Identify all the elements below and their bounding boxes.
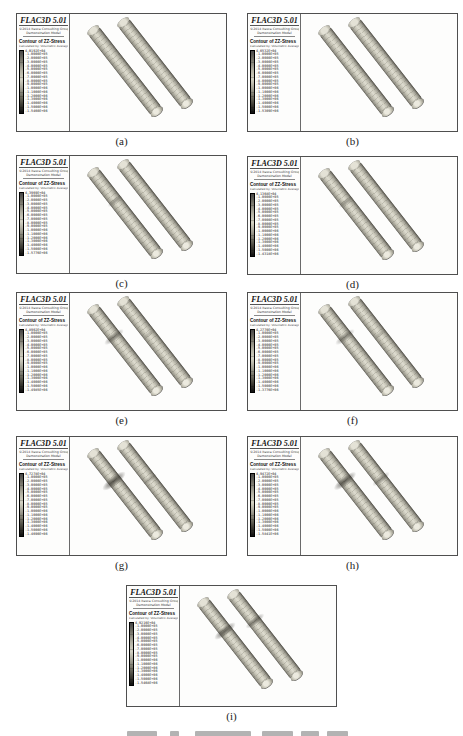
contour-scale: 4.3969E+04-1.0000E+05-2.0000E+05-3.0000E… [19,192,68,256]
subfigure-a: FLAC3D 5.01 ©2014 Itasca Consulting Grou… [16,13,227,147]
model-line: Demonstration Model [23,173,64,179]
figure-page: FLAC3D 5.01 ©2014 Itasca Consulting Grou… [0,0,463,736]
legend-panel: FLAC3D 5.01 ©2014 Itasca Consulting Grou… [17,14,70,131]
specimen-top-face [116,15,131,29]
specimen-bottom-face [149,105,164,119]
model-line: Demonstration Model [254,454,295,460]
subfigure-label: (g) [16,559,227,571]
contour-scale: 4.2770E+04-1.0000E+05-2.0000E+05-3.0000E… [250,329,299,393]
caption-word-blur [195,731,251,736]
contour-scale: 4.9216E+04-1.0000E+05-2.0000E+05-3.0000E… [129,622,178,686]
model-view [301,157,457,274]
flac3d-window: FLAC3D 5.01 ©2014 Itasca Consulting Grou… [247,156,458,275]
legend-entry: -1.5776E+06 [25,252,47,256]
specimen-right [117,18,192,109]
specimen-left [87,168,162,259]
flac3d-logo-text: FLAC3D 5.01 [250,439,299,449]
legend-panel: FLAC3D 5.01 ©2014 Itasca Consulting Grou… [17,156,70,273]
legend-panel: FLAC3D 5.01 ©2014 Itasca Consulting Grou… [248,293,301,410]
model-line: Demonstration Model [254,310,295,316]
subfigure-label: (f) [247,414,458,426]
legend-values: 4.6532E+04-1.0000E+05-2.0000E+05-3.0000E… [256,50,278,114]
specimen-bottom-face [410,240,425,254]
subfigure-c: FLAC3D 5.01 ©2014 Itasca Consulting Grou… [16,155,227,289]
model-view [70,14,226,131]
specimen-bottom-face [149,528,164,542]
specimen-bottom-face [410,97,425,111]
legend-entry: -1.4985E+06 [25,389,47,393]
legend-entry: -1.5841E+06 [256,533,278,537]
flac3d-logo-text: FLAC3D 5.01 [250,159,299,169]
specimen-left [87,305,162,396]
contour-scale: 4.6532E+04-1.0000E+05-2.0000E+05-3.0000E… [250,50,299,114]
specimen-left [87,26,162,117]
flac3d-logo-text: FLAC3D 5.01 [250,295,299,305]
contour-scale: 4.1368E+04-1.0000E+05-2.0000E+05-3.0000E… [250,193,299,257]
colorbar [129,622,134,686]
specimen-top-face [347,294,362,308]
specimen-left [318,305,393,396]
legend-values: 4.8902E+04-1.0000E+05-2.0000E+05-3.0000E… [25,329,47,393]
caption-word-blur [127,731,157,736]
specimen-bottom-face [380,105,395,119]
specimen-top-face [86,302,101,316]
subfigure-g: FLAC3D 5.01 ©2014 Itasca Consulting Grou… [16,436,227,571]
specimen-top-face [347,438,362,452]
legend-panel: FLAC3D 5.01 ©2014 Itasca Consulting Grou… [127,586,180,706]
colorbar [250,193,255,257]
legend-entry: -1.3776E+06 [256,389,278,393]
specimen-bottom-face [289,669,304,683]
specimen-bottom-face [179,97,194,111]
subfigure-h: FLAC3D 5.01 ©2014 Itasca Consulting Grou… [247,436,458,571]
caption-clipped [0,731,463,736]
flac3d-logo-text: FLAC3D 5.01 [19,439,68,449]
contour-scale: 4.0192E+04-1.0000E+05-2.0000E+05-3.0000E… [19,50,68,114]
flac3d-logo-text: FLAC3D 5.01 [19,295,68,305]
subfigure-label: (d) [247,278,458,290]
legend-entry: -1.5468E+06 [135,682,157,686]
legend-entry: -1.4690E+06 [25,533,47,537]
legend-values: 4.3969E+04-1.0000E+05-2.0000E+05-3.0000E… [25,192,47,256]
legend-values: 4.9472E+04-1.0000E+05-2.0000E+05-3.0000E… [256,473,278,537]
legend-entry: -1.4318E+06 [256,253,278,257]
colorbar [250,473,255,537]
legend-values: 4.7278E+04-1.0000E+05-2.0000E+05-3.0000E… [25,473,47,537]
flac3d-window: FLAC3D 5.01 ©2014 Itasca Consulting Grou… [16,292,227,411]
specimen-bottom-face [380,248,395,262]
specimen-bottom-face [149,384,164,398]
subfigure-e: FLAC3D 5.01 ©2014 Itasca Consulting Grou… [16,292,227,426]
model-line: Demonstration Model [133,603,174,609]
colorbar [250,50,255,114]
flac3d-logo-text: FLAC3D 5.01 [250,16,299,26]
caption-word-blur [262,731,293,736]
legend-panel: FLAC3D 5.01 ©2014 Itasca Consulting Grou… [17,293,70,410]
subfigure-d: FLAC3D 5.01 ©2014 Itasca Consulting Grou… [247,156,458,290]
colorbar [19,473,24,537]
contour-scale: 4.9472E+04-1.0000E+05-2.0000E+05-3.0000E… [250,473,299,537]
specimen-top-face [116,438,131,452]
specimen-bottom-face [179,520,194,534]
model-line: Demonstration Model [23,454,64,460]
specimen-right [348,297,423,388]
specimen-bottom-face [149,247,164,261]
caption-word-blur [170,731,179,736]
model-view [301,14,457,131]
model-line: Demonstration Model [254,174,295,180]
legend-values: 4.1368E+04-1.0000E+05-2.0000E+05-3.0000E… [256,193,278,257]
flac3d-window: FLAC3D 5.01 ©2014 Itasca Consulting Grou… [16,13,227,132]
contour-scale: 4.8902E+04-1.0000E+05-2.0000E+05-3.0000E… [19,329,68,393]
specimen-bottom-face [380,528,395,542]
flac3d-logo-text: FLAC3D 5.01 [19,16,68,26]
flac3d-window: FLAC3D 5.01 ©2014 Itasca Consulting Grou… [247,13,458,132]
specimen-bottom-face [410,376,425,390]
specimen-top-face [116,294,131,308]
caption-word-blur [301,731,319,736]
model-view [70,437,226,555]
specimen-bottom-face [410,520,425,534]
flac3d-window: FLAC3D 5.01 ©2014 Itasca Consulting Grou… [16,436,227,556]
colorbar [250,329,255,393]
flac3d-window: FLAC3D 5.01 ©2014 Itasca Consulting Grou… [247,292,458,411]
specimen-top-face [86,446,101,460]
specimen-top-face [317,166,332,180]
specimen-left [87,449,162,540]
